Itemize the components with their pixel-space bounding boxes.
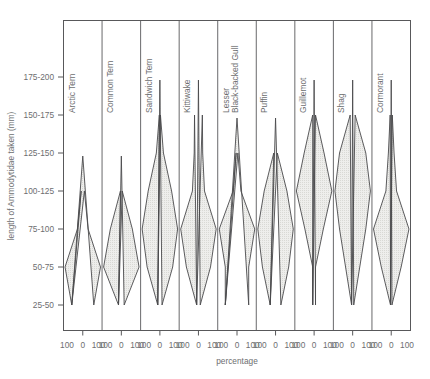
x-axis-tick-label: 100: [60, 340, 74, 350]
species-panel: Puffin: [256, 21, 293, 331]
species-label-line: Sandwich Tern: [144, 58, 154, 113]
x-axis-tick-label: 0: [389, 340, 394, 350]
species-label-line: Cormorant: [375, 73, 385, 113]
panel-group: Arctic TernCommon TernSandwich TernKitti…: [65, 21, 409, 331]
x-axis-tick-label: 100: [330, 340, 344, 350]
species-label-line: Common Tern: [105, 60, 115, 113]
species-panel: Kittiwake: [179, 21, 216, 331]
y-axis-tick-label: 175-200: [24, 72, 55, 82]
species-panel: LesserBlack-backed Gull: [218, 21, 255, 331]
violin-shape: [104, 156, 139, 305]
x-axis-tick-label: 0: [350, 340, 355, 350]
species-label-line: Puffin: [259, 91, 269, 113]
violin-chart-figure: length of Ammodytidae taken (mm) 175-200…: [0, 0, 430, 379]
violin-shape: [65, 156, 100, 305]
species-panel: Common Tern: [102, 21, 139, 331]
species-label: Kittiwake: [182, 79, 192, 113]
species-label-line: Guillemot: [298, 77, 308, 113]
chart-canvas: length of Ammodytidae taken (mm) 175-200…: [0, 0, 430, 379]
species-label: LesserBlack-backed Gull: [221, 45, 241, 113]
species-label-line: Shag: [336, 93, 346, 113]
species-label-line: Arctic Tern: [67, 73, 77, 113]
x-axis-tick-label: 0: [158, 340, 163, 350]
y-axis-tick-label: 125-150: [24, 148, 55, 158]
species-panel: Shag: [333, 21, 370, 331]
x-axis-tick-label: 100: [253, 340, 267, 350]
x-axis-tick-label: 100: [400, 340, 414, 350]
x-axis-tick-group: 1000100100010010001001000100100010010001…: [60, 331, 414, 350]
y-axis-title: length of Ammodytidae taken (mm): [6, 111, 16, 240]
x-axis-tick-label: 0: [312, 340, 317, 350]
x-axis-tick-label: 100: [214, 340, 228, 350]
x-axis-tick-label: 0: [273, 340, 278, 350]
x-axis-tick-label: 0: [196, 340, 201, 350]
y-axis-tick-label: 100-125: [24, 186, 55, 196]
x-axis-tick-label: 100: [369, 340, 383, 350]
violin-shape: [219, 118, 254, 305]
species-label-line: Lesser: [221, 88, 231, 113]
species-label: Arctic Tern: [67, 73, 77, 113]
x-axis-tick-label: 100: [99, 340, 113, 350]
x-axis-tick-label: 100: [176, 340, 190, 350]
x-axis-tick-label: 0: [235, 340, 240, 350]
species-panel: Guillemot: [295, 21, 332, 331]
species-label-line: Kittiwake: [182, 79, 192, 113]
x-axis-tick-label: 100: [137, 340, 151, 350]
x-axis-tick-label: 0: [119, 340, 124, 350]
x-axis-tick-label: 0: [80, 340, 85, 350]
species-panel: Cormorant: [372, 21, 409, 331]
y-axis-tick-label: 50-75: [33, 262, 55, 272]
x-axis-title: percentage: [216, 356, 258, 366]
x-axis-tick-label: 100: [291, 340, 305, 350]
species-label: Shag: [336, 93, 346, 113]
violin-shape: [258, 118, 293, 305]
species-label-line: Black-backed Gull: [230, 45, 240, 113]
species-label: Guillemot: [298, 77, 308, 113]
species-label: Common Tern: [105, 60, 115, 113]
species-panel: Sandwich Tern: [141, 21, 178, 331]
species-label: Puffin: [259, 91, 269, 113]
species-label: Cormorant: [375, 73, 385, 113]
y-axis-tick-label: 25-50: [33, 300, 55, 310]
species-label: Sandwich Tern: [144, 58, 154, 113]
y-axis-tick-group: 175-200150-175125-150100-12575-10050-752…: [24, 72, 64, 310]
species-panel: Arctic Tern: [65, 73, 100, 305]
y-axis-tick-label: 75-100: [28, 224, 54, 234]
y-axis-tick-label: 150-175: [24, 110, 55, 120]
